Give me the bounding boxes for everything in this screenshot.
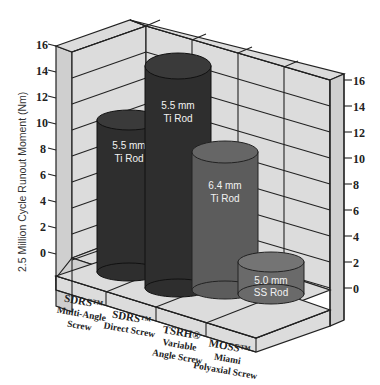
left-tick-4: 4: [40, 194, 46, 208]
right-axis: 16 14 12 10 8 6 4 2 0: [344, 74, 365, 296]
right-tick-0: 0: [353, 282, 359, 296]
chart-3d-cylinder: 16 14 12 10 8 6 4 2 0 2.5 Million Cycle …: [0, 0, 380, 385]
left-tick-6: 6: [40, 168, 46, 182]
left-tick-10: 10: [36, 116, 48, 130]
right-tick-8: 8: [353, 178, 359, 192]
left-tick-0: 0: [40, 246, 46, 260]
right-tick-10: 10: [353, 152, 365, 166]
bar-label-3-size: 6.4 mm: [208, 180, 241, 191]
right-tick-14: 14: [353, 100, 365, 114]
left-axis: 16 14 12 10 8 6 4 2 0: [36, 38, 56, 260]
left-tick-8: 8: [40, 142, 46, 156]
bar-label-4-size: 5.0 mm: [254, 275, 287, 286]
right-tick-4: 4: [353, 230, 359, 244]
bar-moss: 5.0 mm SS Rod: [238, 252, 304, 304]
left-tick-12: 12: [36, 90, 48, 104]
y-axis-label: 2.5 Million Cycle Runout Moment (Nm): [16, 92, 28, 272]
bar-label-2-size: 5.5 mm: [161, 100, 194, 111]
right-tick-16: 16: [353, 74, 365, 88]
category-3: TSRH® Variable Angle Screw: [151, 322, 207, 366]
right-tick-12: 12: [353, 126, 365, 140]
left-tick-16: 16: [36, 38, 48, 52]
bar-label-3-material: Ti Rod: [210, 193, 239, 204]
left-tick-14: 14: [36, 64, 48, 78]
bar-label-1-material: Ti Rod: [114, 153, 143, 164]
bar-label-1-size: 5.5 mm: [112, 140, 145, 151]
left-tick-2: 2: [40, 220, 46, 234]
bar-label-4-material: SS Rod: [254, 287, 288, 298]
right-tick-2: 2: [353, 256, 359, 270]
svg-text:Screw: Screw: [66, 319, 92, 333]
bar-label-2-material: Ti Rod: [163, 113, 192, 124]
right-side-wall: [330, 74, 344, 326]
right-tick-6: 6: [353, 204, 359, 218]
